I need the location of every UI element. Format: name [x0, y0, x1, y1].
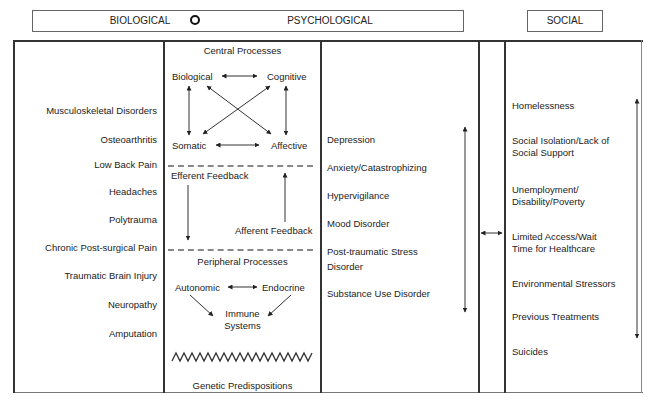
arrow-cog-som	[203, 86, 270, 134]
arrow-auto-immune	[190, 295, 213, 316]
arrows-layer	[0, 0, 662, 401]
genetic-zigzag-icon	[172, 353, 312, 361]
arrow-bio-aff	[207, 86, 271, 134]
arrow-endo-immune	[268, 295, 291, 316]
